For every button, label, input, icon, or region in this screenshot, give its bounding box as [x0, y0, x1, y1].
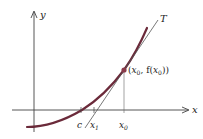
function-curve	[27, 28, 147, 127]
x1-label: x1	[90, 120, 99, 131]
x-axis	[12, 107, 189, 113]
c-label: c	[77, 120, 82, 130]
newtons-method-figure: x y T (x0, f(x0)) c x1 x0	[0, 0, 203, 139]
x-axis-label: x	[192, 104, 198, 115]
y-axis-label: y	[39, 9, 46, 20]
y-axis	[31, 11, 37, 132]
tangent-label: T	[160, 13, 168, 24]
point-label: (x0, f(x0))	[128, 65, 169, 76]
tangent-point	[121, 67, 126, 72]
x0-label: x0	[119, 120, 128, 131]
